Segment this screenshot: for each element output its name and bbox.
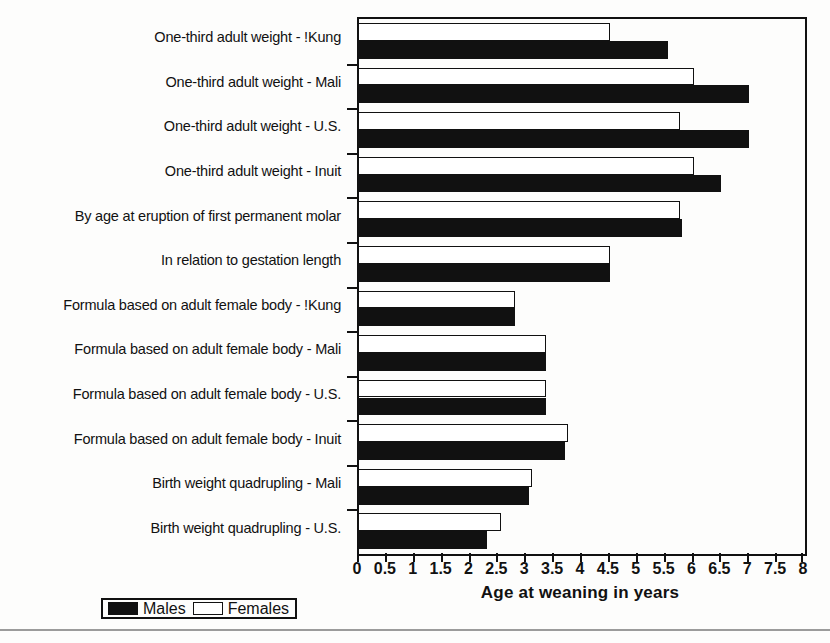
legend-swatch-females-icon (193, 602, 223, 615)
bar-females (359, 424, 568, 442)
x-axis-tick-label: 1 (408, 560, 417, 578)
bar-females (359, 513, 501, 531)
x-axis-tick-label: 7.5 (764, 560, 786, 578)
category-label-column: One-third adult weight - !KungOne-third … (0, 17, 350, 552)
bar-females (359, 201, 680, 219)
y-axis-tick (347, 331, 359, 333)
x-axis-tick-label: 3 (520, 560, 529, 578)
bar-group (359, 376, 805, 421)
x-axis-tick-label: 2 (464, 560, 473, 578)
bar-females (359, 68, 694, 86)
bar-group (359, 420, 805, 465)
bars-container (359, 19, 805, 554)
bar-females (359, 246, 610, 264)
x-axis-tick-label: 5.5 (653, 560, 675, 578)
x-axis-tick-label: 8 (799, 560, 808, 578)
x-axis-tick-label: 4 (576, 560, 585, 578)
bar-group (359, 64, 805, 109)
category-label: One-third adult weight - !Kung (0, 30, 341, 45)
bar-males (359, 398, 546, 416)
bar-males (359, 85, 749, 103)
y-axis-tick (347, 197, 359, 199)
category-label: Birth weight quadrupling - U.S. (0, 521, 341, 536)
y-axis-tick (347, 108, 359, 110)
plot-area (357, 17, 807, 556)
bar-females (359, 469, 532, 487)
bar-group (359, 465, 805, 510)
category-label: Formula based on adult female body - Inu… (0, 432, 341, 447)
x-axis-tick-label: 2.5 (485, 560, 507, 578)
y-axis-tick (347, 420, 359, 422)
category-label: Birth weight quadrupling - Mali (0, 476, 341, 491)
bar-group (359, 287, 805, 332)
x-axis-tick-label: 4.5 (597, 560, 619, 578)
y-axis-tick (347, 376, 359, 378)
x-axis-tick-label: 6 (687, 560, 696, 578)
y-axis-tick (347, 153, 359, 155)
bar-males (359, 487, 529, 505)
legend-label-females: Females (228, 601, 289, 617)
bar-group (359, 197, 805, 242)
chart-legend: Males Females (101, 598, 297, 619)
bar-group (359, 19, 805, 64)
bar-males (359, 531, 487, 549)
bar-females (359, 380, 546, 398)
bar-males (359, 264, 610, 282)
bar-group (359, 331, 805, 376)
bar-group (359, 153, 805, 198)
legend-entry-females: Females (193, 601, 289, 617)
y-axis-tick (347, 287, 359, 289)
x-axis-tick-label: 1.5 (430, 560, 452, 578)
x-axis-tick-label: 0 (353, 560, 362, 578)
x-axis-tick-label: 6.5 (708, 560, 730, 578)
bar-females (359, 335, 546, 353)
bar-males (359, 130, 749, 148)
y-axis-tick (347, 509, 359, 511)
x-axis-title: Age at weaning in years (357, 583, 803, 603)
category-label: One-third adult weight - U.S. (0, 119, 341, 134)
bar-females (359, 291, 515, 309)
y-axis-tick (347, 242, 359, 244)
bar-group (359, 108, 805, 153)
chart-figure: One-third adult weight - !KungOne-third … (0, 0, 830, 643)
bar-males (359, 219, 682, 237)
category-label: Formula based on adult female body - Mal… (0, 342, 341, 357)
bar-males (359, 308, 515, 326)
bar-males (359, 442, 565, 460)
bar-females (359, 23, 610, 41)
bar-males (359, 41, 668, 59)
bar-group (359, 509, 805, 554)
x-axis-tick-label: 5 (631, 560, 640, 578)
category-label: One-third adult weight - Mali (0, 75, 341, 90)
bar-males (359, 353, 546, 371)
legend-label-males: Males (143, 601, 186, 617)
x-axis-tick-label: 3.5 (541, 560, 563, 578)
x-axis-tick-label: 7 (743, 560, 752, 578)
category-label: In relation to gestation length (0, 253, 341, 268)
category-label: By age at eruption of first permanent mo… (0, 209, 341, 224)
legend-swatch-males-icon (108, 602, 138, 615)
category-label: One-third adult weight - Inuit (0, 164, 341, 179)
bar-group (359, 242, 805, 287)
y-axis-tick (347, 465, 359, 467)
x-axis-tick-labels: 00.511.522.533.544.555.566.577.58 (357, 560, 803, 580)
page-divider-rule (0, 629, 830, 631)
bar-females (359, 157, 694, 175)
category-label: Formula based on adult female body - U.S… (0, 387, 341, 402)
legend-entry-males: Males (108, 601, 186, 617)
bar-males (359, 175, 721, 193)
y-axis-tick (347, 64, 359, 66)
x-axis-tick-label: 0.5 (374, 560, 396, 578)
category-label: Formula based on adult female body - !Ku… (0, 298, 341, 313)
bar-females (359, 112, 680, 130)
